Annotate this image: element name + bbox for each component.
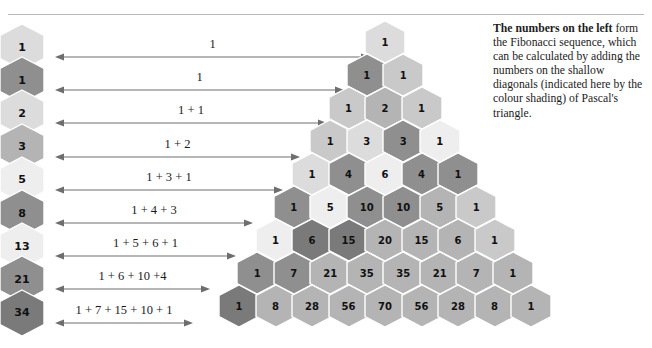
caption-lead: The numbers on the left [493,22,612,35]
pascal-hexagon: 1 [219,285,259,327]
diagonal-sum-label: 1 + 5 + 6 + 1 [55,236,236,251]
diagonal-sum-arrow: 1 [55,73,344,99]
diagonal-sum-arrow: 1 + 4 + 3 [55,206,253,232]
diagonal-sum-arrow: 1 + 2 [55,140,300,166]
diagonal-sum-label: 1 [55,37,370,52]
pascal-hexagon: 56 [329,285,369,327]
diagonal-sum-label: 1 + 6 + 10 +4 [55,269,210,284]
diagonal-sum-arrow: 1 + 5 + 6 + 1 [55,239,236,265]
diagonal-sum-label: 1 [55,70,344,85]
diagonal-sum-arrow: 1 + 1 [55,106,327,132]
pascal-hexagon: 28 [292,285,332,327]
pascal-hexagon: 8 [256,285,296,327]
pascal-hexagon: 1 [511,285,551,327]
caption-block: The numbers on the left form the Fibonac… [493,22,645,121]
caption-body: form the Fibonacci sequence, which can b… [493,22,642,120]
diagonal-sum-label: 1 + 7 + 15 + 10 + 1 [55,303,193,318]
figure-canvas: 112358132134 111 + 11 + 21 + 3 + 11 + 4 … [0,0,652,348]
diagonal-sum-label: 1 + 1 [55,103,327,118]
pascal-hexagon: 56 [402,285,442,327]
pascal-hexagon: 70 [365,285,405,327]
top-divider-rule [8,14,644,15]
pascal-hexagon: 8 [475,285,515,327]
diagonal-sum-arrow: 1 + 3 + 1 [55,173,283,199]
diagonal-sum-label: 1 + 3 + 1 [55,170,283,185]
diagonal-sum-label: 1 + 4 + 3 [55,203,253,218]
pascal-hexagon: 28 [438,285,478,327]
diagonal-sum-label: 1 + 2 [55,137,300,152]
diagonal-sum-arrow: 1 + 6 + 10 +4 [55,272,210,298]
diagonal-sum-arrow: 1 [55,40,370,66]
fibonacci-hexagon: 34 [0,290,44,336]
diagonal-sum-arrow: 1 + 7 + 15 + 10 + 1 [55,306,193,332]
